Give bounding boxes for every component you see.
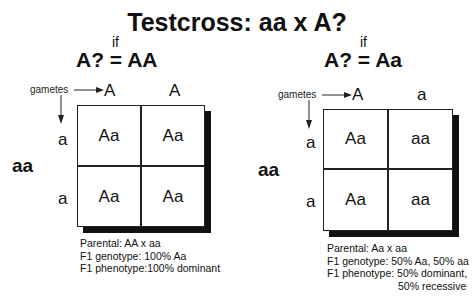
diagram-title: Testcross: aa x A?: [0, 8, 474, 37]
arrow-down-icon: [304, 100, 314, 130]
gametes-label: gametes: [278, 89, 316, 100]
parent-genotype: aa: [258, 159, 279, 181]
arrow-right-icon: [74, 85, 104, 95]
parent-genotype: aa: [12, 155, 33, 177]
gametes-label: gametes: [30, 84, 68, 95]
arrow-down-icon: [56, 95, 66, 125]
arrow-right-icon: [322, 90, 352, 100]
top-gamete-2: A: [169, 81, 180, 101]
genotype-equation: A? = AA: [76, 48, 157, 72]
parental-text: Parental: Aa x aa: [327, 242, 469, 255]
f1-genotype-text: F1 genotype: 100% Aa: [80, 250, 220, 263]
punnett-cell: Aa: [324, 110, 387, 168]
punnett-cell: Aa: [142, 167, 204, 226]
punnett-cell: Aa: [78, 106, 140, 165]
punnett-cell: Aa: [78, 167, 140, 226]
punnett-cell: aa: [389, 170, 452, 230]
punnett-cell: Aa: [324, 170, 387, 230]
f1-phenotype-text-cont: 50% recessive: [327, 280, 469, 293]
side-gamete-1: a: [306, 133, 315, 153]
side-gamete-2: a: [58, 189, 67, 209]
top-gamete-1: A: [104, 81, 115, 101]
side-gamete-1: a: [58, 130, 67, 150]
punnett-cell: aa: [389, 110, 452, 168]
cross-summary: Parental: Aa x aa F1 genotype: 50% Aa, 5…: [327, 242, 469, 292]
f1-phenotype-text: F1 phenotype:100% dominant: [80, 262, 220, 275]
top-gamete-2: a: [417, 85, 426, 105]
punnett-square: Aa aa Aa aa: [323, 109, 453, 231]
top-gamete-1: A: [352, 85, 363, 105]
parental-text: Parental: AA x aa: [80, 237, 220, 250]
punnett-cell: Aa: [142, 106, 204, 165]
genotype-equation: A? = Aa: [324, 48, 402, 72]
f1-phenotype-text: F1 phenotype: 50% dominant,: [327, 267, 469, 280]
side-gamete-2: a: [306, 192, 315, 212]
punnett-square: Aa Aa Aa Aa: [77, 105, 205, 227]
cross-summary: Parental: AA x aa F1 genotype: 100% Aa F…: [80, 237, 220, 275]
f1-genotype-text: F1 genotype: 50% Aa, 50% aa: [327, 255, 469, 268]
